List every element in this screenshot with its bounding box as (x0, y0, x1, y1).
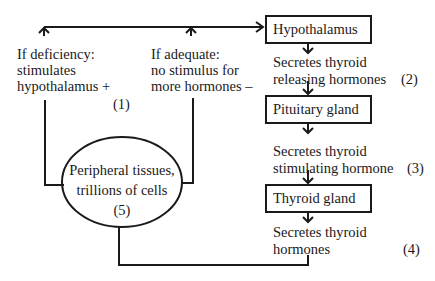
arrow-up-adequate-icon (186, 27, 196, 36)
step-5-number: (5) (62, 200, 182, 220)
right-connector-line (181, 98, 193, 183)
hypothalamus-box: Hypothalamus (265, 15, 372, 44)
peripheral-label-line2: trillions of cells (62, 180, 182, 200)
pituitary-label: Pituitary gland (273, 101, 359, 117)
adequate-text-line1: If adequate: (151, 46, 220, 62)
adequate-text-line2: no stimulus for (151, 62, 239, 78)
pituitary-box: Pituitary gland (265, 95, 372, 124)
arrow-down-3-icon (303, 123, 313, 133)
deficiency-text-line1: If deficiency: (17, 46, 95, 62)
deficiency-text-line3: hypothalamus + (17, 78, 110, 94)
adequate-text-line3: more hormones – (151, 78, 252, 94)
step-4-text-line1: Secretes thyroid (273, 224, 367, 240)
step-3-text-line1: Secretes thyroid (273, 143, 367, 159)
step-3-number: (3) (407, 160, 424, 176)
step-1-number: (1) (113, 96, 130, 112)
hypothalamus-label: Hypothalamus (273, 21, 358, 37)
deficiency-text-line2: stimulates (17, 62, 76, 78)
arrow-down-1-icon (303, 43, 313, 53)
step-2-number: (2) (401, 71, 418, 87)
arrow-up-deficiency-icon (39, 27, 49, 36)
arrow-down-5-icon (303, 212, 313, 222)
step-2-text-line2: releasing hormones (273, 71, 386, 87)
peripheral-label: Peripheral tissues, trillions of cells (… (62, 160, 182, 220)
step-4-number: (4) (403, 241, 420, 257)
step-4-text-line2: hormones (273, 241, 330, 257)
step-3-text-line2: stimulating hormone (273, 160, 393, 176)
peripheral-label-line1: Peripheral tissues, (62, 160, 182, 180)
step-2-text-line1: Secretes thyroid (273, 54, 367, 70)
thyroid-label: Thyroid gland (273, 190, 356, 206)
thyroid-box: Thyroid gland (265, 184, 372, 213)
